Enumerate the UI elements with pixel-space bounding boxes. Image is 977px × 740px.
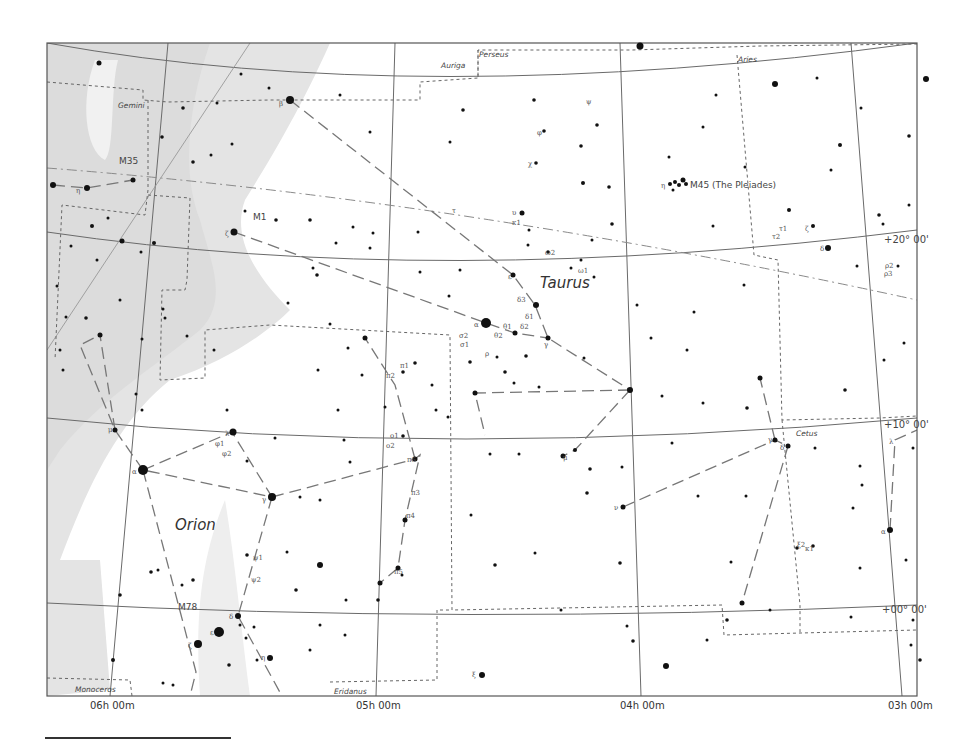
svg-text:ρ: ρ <box>485 350 489 358</box>
milky-way-lower <box>47 560 110 696</box>
svg-text:π1: π1 <box>400 362 409 370</box>
svg-text:ν: ν <box>614 504 618 512</box>
svg-text:π4: π4 <box>406 512 416 520</box>
svg-text:λ: λ <box>225 430 230 438</box>
svg-text:τ: τ <box>452 207 456 215</box>
svg-text:ζ: ζ <box>805 225 809 233</box>
label-m78: M78 <box>178 602 197 612</box>
ra-grid-3h <box>851 43 902 696</box>
dec-label-0: +00° 00' <box>882 604 927 615</box>
svg-text:ο2: ο2 <box>386 442 395 450</box>
orion-figure-shield <box>272 455 420 583</box>
svg-text:δ: δ <box>780 444 784 452</box>
label-m35: M35 <box>119 156 138 166</box>
svg-text:ζ: ζ <box>188 642 192 650</box>
svg-text:η: η <box>661 182 665 190</box>
svg-text:ξ: ξ <box>472 671 476 679</box>
svg-text:θ1: θ1 <box>503 323 512 331</box>
svg-text:μ: μ <box>108 426 113 434</box>
svg-text:σ1: σ1 <box>460 341 469 349</box>
svg-text:ζ: ζ <box>225 230 229 238</box>
label-taurus: Taurus <box>540 274 590 292</box>
svg-text:ρ2: ρ2 <box>885 262 894 270</box>
svg-text:η: η <box>261 654 265 662</box>
orion-figure-shoulders <box>143 432 272 497</box>
svg-text:δ1: δ1 <box>525 313 534 321</box>
taurus-figure-horn-south <box>234 232 548 338</box>
svg-text:η: η <box>76 187 80 195</box>
svg-text:χ: χ <box>528 160 533 168</box>
boundary-orion-taurus <box>148 195 917 635</box>
label-monoceros: Monoceros <box>75 685 116 694</box>
svg-text:μ: μ <box>563 454 568 462</box>
dec-label-20: +20° 00' <box>884 234 929 245</box>
label-m1: M1 <box>253 212 267 222</box>
orion-figure-shield-north <box>365 338 415 459</box>
svg-text:τ2: τ2 <box>772 233 780 241</box>
svg-text:π5: π5 <box>394 568 403 576</box>
ra-grid-4h <box>620 43 641 696</box>
svg-text:ψ1: ψ1 <box>253 554 263 562</box>
cetus-figure <box>623 378 788 603</box>
svg-text:υ: υ <box>512 209 516 217</box>
label-aries: Aries <box>737 55 757 64</box>
svg-text:θ2: θ2 <box>494 332 503 340</box>
svg-text:φ1: φ1 <box>215 440 224 448</box>
ra-label-5h: 05h 00m <box>356 700 401 711</box>
taurus-figure-body <box>475 390 630 435</box>
label-eridanus: Eridanus <box>334 687 367 696</box>
svg-text:γ: γ <box>262 496 266 504</box>
boundary-cetus <box>782 420 800 635</box>
svg-text:ε: ε <box>508 273 512 281</box>
svg-text:γ: γ <box>768 436 772 444</box>
svg-text:ω2: ω2 <box>545 249 555 257</box>
svg-text:δ: δ <box>820 245 824 253</box>
svg-text:β: β <box>279 100 283 108</box>
ra-label-4h: 04h 00m <box>620 700 665 711</box>
svg-text:α: α <box>132 468 137 476</box>
taurus-figure-lambda <box>563 390 630 456</box>
svg-text:π6: π6 <box>407 456 417 464</box>
svg-text:φ2: φ2 <box>222 450 231 458</box>
boundary-eridanus <box>330 610 452 682</box>
svg-text:ο1: ο1 <box>390 432 399 440</box>
scale-bar <box>45 737 231 739</box>
svg-text:τ1: τ1 <box>779 225 787 233</box>
label-orion: Orion <box>175 516 216 534</box>
svg-text:α: α <box>881 528 886 536</box>
svg-text:ω1: ω1 <box>578 267 588 275</box>
label-gemini: Gemini <box>118 101 146 110</box>
svg-text:ε: ε <box>210 629 214 637</box>
svg-text:ψ2: ψ2 <box>251 576 261 584</box>
svg-text:δ2: δ2 <box>520 323 529 331</box>
svg-text:κ1: κ1 <box>805 545 814 553</box>
cetus-figure-east <box>890 430 917 530</box>
label-auriga: Auriga <box>440 61 466 70</box>
star-chart: Taurus Orion Gemini Auriga Perseus Aries… <box>0 0 977 740</box>
svg-text:δ3: δ3 <box>517 296 526 304</box>
svg-text:σ2: σ2 <box>459 332 468 340</box>
svg-text:φ: φ <box>537 129 542 137</box>
svg-text:α: α <box>474 321 479 329</box>
svg-text:ρ3: ρ3 <box>884 270 893 278</box>
dec-label-10: +10° 00' <box>884 419 929 430</box>
ra-label-3h: 03h 00m <box>888 700 933 711</box>
svg-text:π2: π2 <box>386 372 395 380</box>
svg-text:ψ: ψ <box>586 98 592 106</box>
label-cetus: Cetus <box>796 429 818 438</box>
svg-text:γ: γ <box>544 341 548 349</box>
ra-label-6h: 06h 00m <box>90 700 135 711</box>
svg-text:κ1: κ1 <box>512 219 521 227</box>
label-m45: M45 (The Pleiades) <box>690 180 776 190</box>
svg-text:λ: λ <box>889 438 894 446</box>
svg-text:π3: π3 <box>411 489 420 497</box>
svg-text:δ: δ <box>229 613 233 621</box>
label-perseus: Perseus <box>479 50 508 59</box>
